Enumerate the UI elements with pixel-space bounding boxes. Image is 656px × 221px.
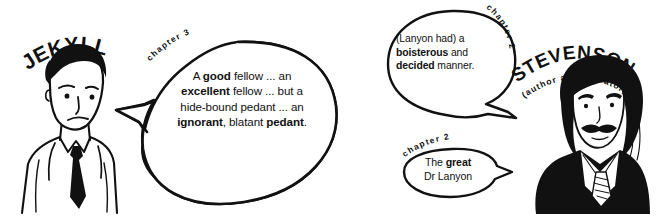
lanyon-manner-line-2: boisterous and [396, 46, 504, 60]
comic-illustration: JEKYLL chapter 3 chapter 2 chapter 2 [0, 0, 656, 221]
stevenson-eye-left [584, 104, 588, 109]
lanyon-great-text: The great Dr Lanyon [409, 156, 487, 184]
lanyon-manner-line-3: decided manner. [396, 59, 504, 73]
lanyon-great-line-1: The great [409, 156, 487, 170]
jekyll-tie [70, 146, 86, 209]
lanyon-manner-text: (Lanyon had) a boisterous and decided ma… [396, 32, 504, 73]
jekyll-quote-line-4: ignorant, blatant pedant. [166, 114, 318, 129]
jekyll-quote-text: A good fellow ... an excellent fellow ..… [166, 68, 318, 129]
jekyll-quote-line-3: hide-bound pedant ... an [166, 99, 318, 114]
jekyll-quote-line-2: excellent fellow ... but a [166, 83, 318, 98]
lanyon-great-line-2: Dr Lanyon [409, 170, 487, 184]
jekyll-eye-left [65, 93, 70, 98]
lanyon-manner-line-1: (Lanyon had) a [396, 32, 504, 46]
chapter-label-3: chapter 3 [144, 26, 191, 63]
jekyll-eye-right [90, 94, 95, 99]
illustration-canvas: JEKYLL chapter 3 chapter 2 chapter 2 [0, 0, 656, 221]
stevenson-eye-right [610, 103, 614, 108]
jekyll-quote-line-1: A good fellow ... an [166, 68, 318, 83]
